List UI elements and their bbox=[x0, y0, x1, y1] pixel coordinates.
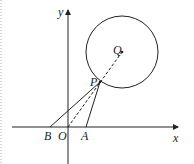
origin-label: O bbox=[58, 129, 67, 143]
point-p bbox=[99, 81, 102, 84]
dashed-line-oq bbox=[68, 52, 122, 127]
point-a-label: A bbox=[80, 129, 89, 143]
y-axis-label: y bbox=[57, 5, 64, 19]
point-b-label: B bbox=[44, 129, 52, 143]
center-q-label: Q bbox=[113, 43, 122, 57]
x-axis-label: x bbox=[172, 131, 179, 145]
point-p-label: P bbox=[89, 75, 98, 89]
geometry-diagram: y x O B A P Q bbox=[0, 0, 194, 164]
